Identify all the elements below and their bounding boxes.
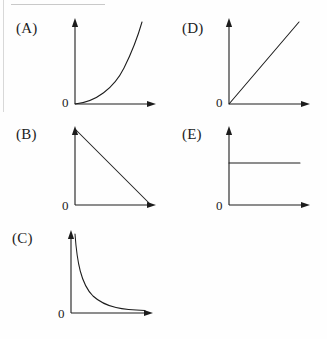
plot-a <box>70 16 158 112</box>
figure-canvas: (A) 0 (D) 0 (B) 0 <box>0 0 327 339</box>
y-axis-arrowhead-d <box>226 18 232 27</box>
panel-label-e: (E) <box>182 126 202 143</box>
panel-label-d: (D) <box>182 20 203 37</box>
plot-d <box>224 16 312 112</box>
x-axis-arrowhead-a <box>147 101 156 107</box>
y-axis-arrowhead-a <box>72 18 78 27</box>
panel-d: (D) 0 <box>166 14 326 114</box>
origin-label-d: 0 <box>216 95 223 111</box>
origin-label-e: 0 <box>216 198 223 214</box>
plot-b <box>70 122 158 214</box>
x-axis-arrowhead-e <box>301 202 310 208</box>
y-axis-arrowhead-c <box>68 230 74 239</box>
top-horizontal-rule <box>11 4 105 5</box>
origin-label-a: 0 <box>62 95 69 111</box>
panel-b: (B) 0 <box>0 122 160 218</box>
origin-label-c: 0 <box>58 306 65 322</box>
plot-e <box>224 122 312 214</box>
origin-label-b: 0 <box>62 198 69 214</box>
x-axis-arrowhead-d <box>301 101 310 107</box>
panel-label-c: (C) <box>12 230 33 247</box>
curve-linear-increasing-d <box>229 22 299 104</box>
curve-exponential-a <box>75 22 142 104</box>
panel-label-b: (B) <box>16 126 37 143</box>
panel-a: (A) 0 <box>0 14 160 114</box>
curve-inverse-decay-c <box>75 234 145 311</box>
curve-linear-decreasing-b <box>76 130 150 204</box>
panel-c: (C) 0 <box>0 226 160 330</box>
y-axis-arrowhead-e <box>226 126 232 135</box>
panel-label-a: (A) <box>16 20 37 37</box>
plot-c <box>66 226 158 326</box>
panel-e: (E) 0 <box>166 122 326 218</box>
